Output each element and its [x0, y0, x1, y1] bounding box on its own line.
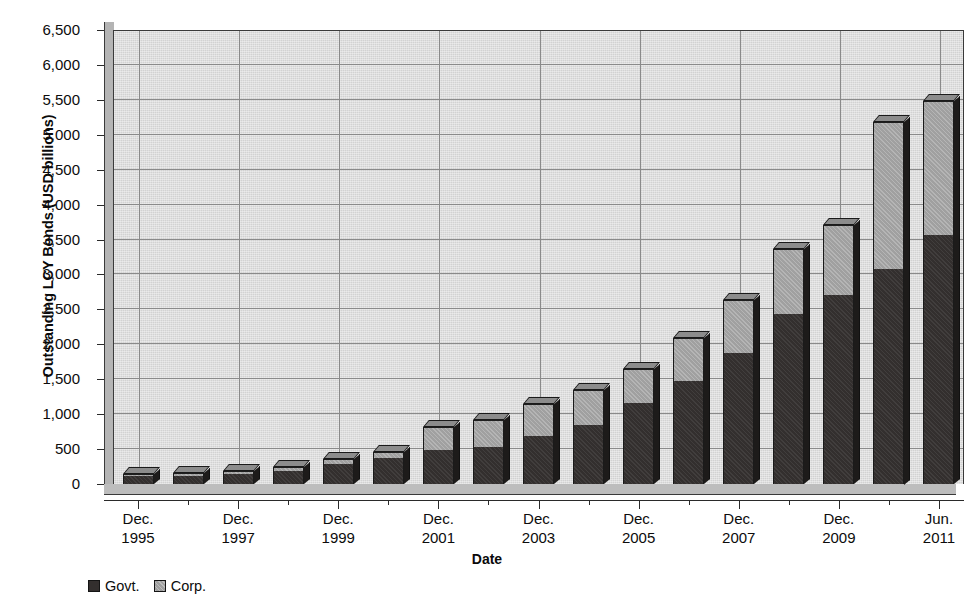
- bar-segment-corp: [873, 122, 904, 269]
- y-tick-mark: [97, 65, 104, 66]
- y-tick-label: 6,000: [0, 56, 80, 73]
- bar-segment-govt: [123, 476, 154, 484]
- bar-segment-govt: [173, 476, 204, 484]
- bar-segment-govt: [623, 403, 654, 484]
- bar-top-face: [873, 115, 910, 122]
- y-tick-mark: [97, 100, 104, 101]
- bar-segment-govt: [923, 235, 954, 484]
- bar-top-face: [673, 331, 710, 338]
- bar-column: [273, 467, 304, 484]
- bar-column: [323, 459, 354, 484]
- y-tick-label: 6,500: [0, 21, 80, 38]
- bar-column: [223, 471, 254, 484]
- bar-top-face: [523, 397, 560, 404]
- x-tick-mark: [338, 500, 339, 509]
- y-tick-mark: [97, 205, 104, 206]
- x-tick-mark: [739, 500, 740, 509]
- bar-top-face: [473, 413, 510, 420]
- y-tick-mark: [97, 449, 104, 450]
- bar-segment-corp: [773, 249, 804, 314]
- y-tick-mark: [97, 414, 104, 415]
- y-tick-mark: [97, 30, 104, 31]
- bar-segment-govt: [523, 436, 554, 484]
- bar-side-face: [604, 385, 610, 484]
- bar-segment-govt: [773, 314, 804, 484]
- x-tick-mark-minor: [589, 500, 590, 505]
- bar-side-face: [454, 422, 460, 484]
- bar-column: [773, 249, 804, 484]
- bar-side-face: [704, 333, 710, 484]
- bar-segment-govt: [423, 450, 454, 484]
- legend-swatch-govt-icon: [88, 580, 100, 592]
- x-tick-mark: [539, 500, 540, 509]
- y-tick-mark: [97, 379, 104, 380]
- y-tick-label: 4,500: [0, 161, 80, 178]
- bar-segment-govt: [673, 381, 704, 484]
- bar-column: [823, 225, 854, 484]
- chart-figure: Outstanding LCY Bonds (USD billions) 050…: [0, 0, 974, 615]
- bar-side-face: [504, 415, 510, 484]
- bar-top-face: [823, 218, 860, 225]
- bar-segment-govt: [473, 447, 504, 484]
- bar-series-container: [113, 30, 964, 484]
- x-tick-mark: [138, 500, 139, 509]
- y-tick-label: 5,500: [0, 91, 80, 108]
- bar-segment-corp: [323, 459, 354, 465]
- bar-segment-corp: [623, 369, 654, 403]
- bar-segment-corp: [123, 474, 154, 476]
- bar-side-face: [754, 295, 760, 484]
- x-axis-line: [104, 500, 964, 501]
- bar-top-face: [123, 467, 160, 474]
- bar-side-face: [804, 244, 810, 484]
- bar-segment-corp: [273, 467, 304, 471]
- bar-segment-corp: [823, 225, 854, 295]
- bar-column: [923, 101, 954, 484]
- bar-side-face: [854, 220, 860, 484]
- x-axis-title: Date: [0, 551, 974, 567]
- bar-segment-corp: [473, 420, 504, 447]
- y-tick-mark: [97, 309, 104, 310]
- y-tick-label: 500: [0, 440, 80, 457]
- bar-top-face: [323, 452, 360, 459]
- bar-top-face: [773, 242, 810, 249]
- bar-top-face: [573, 383, 610, 390]
- bar-column: [373, 452, 404, 484]
- y-tick-mark: [97, 170, 104, 171]
- bar-top-face: [373, 445, 410, 452]
- bar-side-face: [354, 454, 360, 484]
- x-tick-mark: [639, 500, 640, 509]
- y-tick-label: 3,500: [0, 231, 80, 248]
- legend-label-corp: Corp.: [171, 578, 206, 594]
- y-tick-label: 2,500: [0, 300, 80, 317]
- plot-area-3d: 05001,0001,5002,0002,5003,0003,5004,0004…: [104, 22, 964, 500]
- bar-column: [623, 369, 654, 484]
- x-tick-mark: [438, 500, 439, 509]
- y-tick-label: 1,000: [0, 405, 80, 422]
- y-tick-label: 1,500: [0, 370, 80, 387]
- x-tick-mark: [939, 500, 940, 509]
- bar-column: [473, 420, 504, 484]
- y-tick-mark: [97, 274, 104, 275]
- bar-segment-govt: [373, 458, 404, 484]
- bar-column: [423, 427, 454, 484]
- bar-top-face: [423, 420, 460, 427]
- y-tick-label: 4,000: [0, 196, 80, 213]
- y-tick-mark: [97, 240, 104, 241]
- bar-segment-corp: [373, 452, 404, 459]
- legend-label-govt: Govt.: [105, 578, 140, 594]
- bar-segment-govt: [223, 474, 254, 484]
- bar-column: [123, 474, 154, 484]
- x-tick-mark-minor: [188, 500, 189, 505]
- x-tick-mark-minor: [889, 500, 890, 505]
- bar-segment-corp: [223, 471, 254, 474]
- bar-segment-govt: [823, 295, 854, 484]
- bar-segment-corp: [573, 390, 604, 425]
- bar-side-face: [904, 116, 910, 484]
- y-tick-label: 0: [0, 475, 80, 492]
- bar-segment-corp: [423, 427, 454, 450]
- y-tick-mark: [97, 135, 104, 136]
- bar-side-face: [404, 446, 410, 484]
- bar-top-face: [924, 94, 961, 101]
- bar-segment-govt: [873, 269, 904, 484]
- bar-side-face: [554, 399, 560, 484]
